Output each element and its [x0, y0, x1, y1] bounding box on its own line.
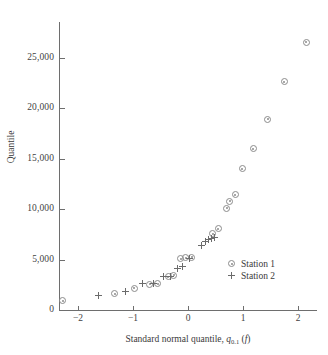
y-tick: [60, 159, 65, 160]
y-axis-title: Quantile: [6, 117, 16, 177]
x-axis-title-paren-close: ): [247, 334, 250, 344]
data-point: [146, 281, 153, 288]
data-point: [215, 225, 222, 232]
data-point: [160, 273, 167, 280]
y-tick-label: 5,000: [8, 255, 54, 265]
x-tick-label: 0: [173, 313, 203, 324]
data-point: [122, 288, 129, 295]
data-point: [264, 116, 271, 123]
legend-item: Station 1: [228, 258, 275, 270]
data-point: [179, 263, 186, 270]
data-point: [250, 145, 257, 152]
plus-marker-icon: [228, 272, 235, 279]
data-point: [211, 234, 218, 241]
x-tick-label: 1: [228, 313, 258, 324]
x-tick: [78, 306, 79, 311]
x-axis-title: Standard normal quantile, q0.1 (f): [59, 334, 317, 345]
legend-item: Station 2: [228, 270, 275, 282]
data-point: [188, 254, 195, 261]
x-tick-label: −2: [63, 313, 93, 324]
y-axis-line: [59, 22, 60, 311]
y-tick-label: 0: [8, 305, 54, 315]
data-point: [202, 238, 209, 245]
y-tick: [60, 260, 65, 261]
x-axis-title-subscript: 0.1: [231, 338, 239, 345]
x-tick: [133, 306, 134, 311]
x-axis-title-main: Standard normal quantile,: [125, 334, 226, 344]
data-point: [165, 273, 172, 280]
data-point: [95, 292, 102, 299]
legend-label: Station 1: [241, 259, 275, 269]
data-point: [205, 236, 212, 243]
data-point: [223, 205, 230, 212]
data-point: [150, 280, 157, 287]
x-tick-label: 2: [283, 313, 313, 324]
y-tick: [60, 209, 65, 210]
x-tick: [298, 306, 299, 311]
y-tick-label: 25,000: [8, 53, 54, 63]
y-tick: [60, 58, 65, 59]
data-point: [186, 255, 193, 262]
data-point: [139, 280, 146, 287]
legend: Station 1Station 2: [228, 258, 275, 282]
data-point: [131, 285, 138, 292]
data-point: [59, 297, 66, 304]
x-tick: [243, 306, 244, 311]
x-tick: [188, 306, 189, 311]
circle-dot-marker-icon: [228, 260, 235, 267]
data-point: [154, 280, 161, 287]
legend-label: Station 2: [241, 271, 275, 281]
qq-plot-figure: 05,00010,00015,00020,00025,000 −2−1012 Q…: [0, 0, 328, 355]
data-point: [170, 272, 177, 279]
y-tick: [60, 108, 65, 109]
data-point: [232, 191, 239, 198]
y-tick: [60, 310, 65, 311]
x-tick-label: −1: [118, 313, 148, 324]
data-point: [303, 39, 310, 46]
data-point: [281, 78, 288, 85]
data-point: [177, 255, 184, 262]
data-point: [182, 254, 189, 261]
data-point: [198, 242, 205, 249]
data-point: [167, 273, 174, 280]
data-point: [208, 235, 215, 242]
data-point: [174, 265, 181, 272]
data-point: [226, 198, 233, 205]
data-point: [209, 230, 216, 237]
y-tick-label: 20,000: [8, 103, 54, 113]
data-point: [111, 290, 118, 297]
y-tick-label: 10,000: [8, 204, 54, 214]
data-point: [239, 165, 246, 172]
